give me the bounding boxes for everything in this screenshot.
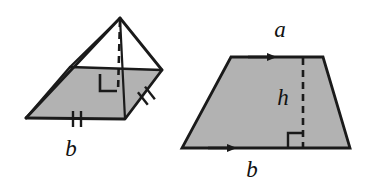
trapezoid-height-label-h: h (277, 85, 289, 110)
trapezoid-bottom-label-b: b (246, 157, 258, 182)
geometry-diagram-svg: b a h b (0, 0, 373, 182)
trapezoid-top-label-a: a (274, 17, 286, 42)
pyramid-base-edge-label-b: b (65, 136, 77, 161)
trapezoid-figure: a h b (182, 17, 350, 182)
pyramid-lateral-edge-right (120, 18, 162, 70)
trapezoid-shape (182, 57, 350, 148)
pyramid-figure: b (26, 18, 162, 161)
pyramid-lateral-edge-back (70, 18, 120, 67)
geometry-figure-container: b a h b (0, 0, 373, 182)
